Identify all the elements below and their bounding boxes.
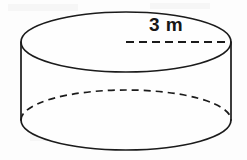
cylinder-figure: 3 m [0,0,247,160]
radius-dimension-label: 3 m [136,14,196,36]
cylinder-svg [0,0,247,160]
